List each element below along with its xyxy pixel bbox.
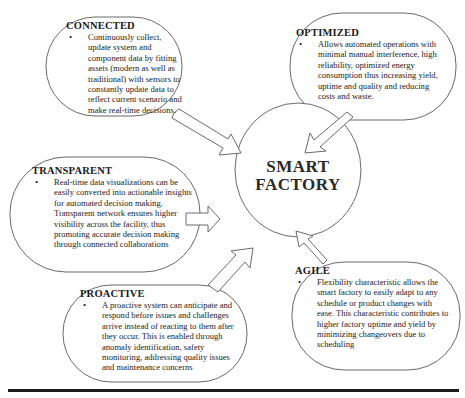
node-connected: CONNECTED Continuously collect, update s…: [66, 20, 184, 115]
node-title: CONNECTED: [66, 20, 184, 32]
node-transparent: TRANSPARENT Real-time data visualization…: [32, 165, 200, 250]
node-bullet: Real-time data visualizations can be eas…: [54, 177, 200, 250]
arrow-agile: [296, 231, 327, 264]
node-optimized: OPTIMIZED Allows automated operations wi…: [296, 27, 444, 101]
arrow-proactive: [208, 248, 253, 292]
node-title: PROACTIVE: [80, 288, 242, 300]
node-bullet: Continuously collect, update system and …: [88, 32, 184, 115]
node-bullet: A proactive system can anticipate and re…: [102, 300, 242, 373]
smart-factory-label: SMART FACTORY: [228, 158, 368, 194]
bottom-rule: [8, 389, 459, 392]
node-title: AGILE: [295, 265, 451, 277]
node-title: TRANSPARENT: [32, 165, 200, 177]
node-proactive: PROACTIVE A proactive system can anticip…: [80, 288, 242, 373]
node-bullet: Allows automated operations with minimal…: [318, 39, 444, 101]
node-agile: AGILE Flexibility characteristic allows …: [295, 265, 451, 350]
node-bullet: Flexibility characteristic allows the sm…: [317, 277, 451, 350]
node-title: OPTIMIZED: [296, 27, 444, 39]
arrow-connected: [172, 109, 241, 155]
